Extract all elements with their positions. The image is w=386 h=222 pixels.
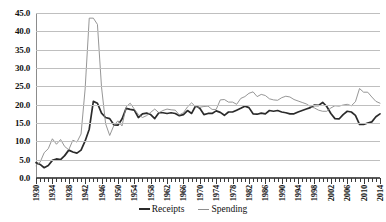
x-axis-tick-label: 1970 bbox=[195, 185, 205, 201]
x-axis-major-tick bbox=[118, 178, 119, 184]
x-axis-minor-tick bbox=[319, 178, 320, 182]
gridline bbox=[36, 31, 380, 32]
series-line-receipts bbox=[36, 101, 380, 167]
x-axis-major-tick bbox=[167, 178, 168, 184]
x-axis-tick-label: 2010 bbox=[359, 185, 369, 201]
y-axis-tick-label: 45.0 bbox=[15, 8, 30, 18]
x-axis-tick-label: 1954 bbox=[129, 185, 139, 201]
x-axis-tick-label: 1990 bbox=[277, 185, 287, 201]
legend-label-spending: Spending bbox=[211, 204, 247, 214]
x-axis-minor-tick bbox=[224, 178, 225, 182]
x-axis-minor-tick bbox=[40, 178, 41, 182]
x-axis-tick-label: 1978 bbox=[228, 185, 238, 201]
x-axis-minor-tick bbox=[372, 178, 373, 182]
x-axis-minor-tick bbox=[130, 178, 131, 182]
x-axis-tick-label: 1930 bbox=[31, 185, 41, 201]
x-axis-major-tick bbox=[380, 178, 381, 184]
x-axis-major-tick bbox=[134, 178, 135, 184]
x-axis-major-tick bbox=[85, 178, 86, 184]
plot-area bbox=[36, 13, 380, 178]
x-axis-major-tick bbox=[69, 178, 70, 184]
x-axis-minor-tick bbox=[208, 178, 209, 182]
x-axis-minor-tick bbox=[269, 178, 270, 182]
x-axis-minor-tick bbox=[93, 178, 94, 182]
x-axis-minor-tick bbox=[159, 178, 160, 182]
x-axis-tick-label: 1966 bbox=[178, 185, 188, 201]
x-axis-major-tick bbox=[249, 178, 250, 184]
chart-container: 0.05.010.015.020.025.030.035.040.045.0 1… bbox=[0, 0, 386, 222]
x-axis-minor-tick bbox=[376, 178, 377, 182]
x-axis-minor-tick bbox=[220, 178, 221, 182]
x-axis-major-tick bbox=[52, 178, 53, 184]
x-axis-minor-tick bbox=[179, 178, 180, 182]
y-axis-tick-label: 0.0 bbox=[19, 173, 30, 183]
x-axis-minor-tick bbox=[147, 178, 148, 182]
gridline bbox=[36, 141, 380, 142]
x-axis-minor-tick bbox=[294, 178, 295, 182]
x-axis-major-tick bbox=[216, 178, 217, 184]
x-axis-minor-tick bbox=[278, 178, 279, 182]
gridline bbox=[36, 86, 380, 87]
y-axis-tick-label: 5.0 bbox=[19, 155, 30, 165]
x-axis-major-tick bbox=[331, 178, 332, 184]
x-axis-tick-label: 1986 bbox=[260, 185, 270, 201]
x-axis-minor-tick bbox=[241, 178, 242, 182]
legend-item-spending: Spending bbox=[198, 204, 247, 214]
y-axis-tick-label: 25.0 bbox=[15, 81, 30, 91]
legend-item-receipts: Receipts bbox=[139, 204, 185, 214]
x-axis-minor-tick bbox=[327, 178, 328, 182]
gridline bbox=[36, 160, 380, 161]
x-axis-tick-label: 1994 bbox=[293, 185, 303, 201]
x-axis-tick-label: 1950 bbox=[113, 185, 123, 201]
y-axis-tick-label: 35.0 bbox=[15, 45, 30, 55]
x-axis-minor-tick bbox=[110, 178, 111, 182]
x-axis-tick-label: 1942 bbox=[80, 185, 90, 201]
x-axis-minor-tick bbox=[196, 178, 197, 182]
y-axis-labels: 0.05.010.015.020.025.030.035.040.045.0 bbox=[0, 0, 34, 191]
x-axis-minor-tick bbox=[261, 178, 262, 182]
x-axis-minor-tick bbox=[142, 178, 143, 182]
x-axis-minor-tick bbox=[290, 178, 291, 182]
x-axis-minor-tick bbox=[138, 178, 139, 182]
gridline bbox=[36, 123, 380, 124]
x-axis-tick-label: 2006 bbox=[342, 185, 352, 201]
x-axis-major-tick bbox=[151, 178, 152, 184]
series-layer bbox=[36, 13, 380, 178]
x-axis-minor-tick bbox=[44, 178, 45, 182]
x-axis-minor-tick bbox=[89, 178, 90, 182]
x-axis-major-tick bbox=[102, 178, 103, 184]
x-axis-minor-tick bbox=[56, 178, 57, 182]
x-axis-tick-label: 1958 bbox=[146, 185, 156, 201]
x-axis-minor-tick bbox=[155, 178, 156, 182]
legend-line-icon-spending bbox=[198, 209, 209, 210]
legend-label-receipts: Receipts bbox=[152, 204, 185, 214]
y-axis-tick-label: 15.0 bbox=[15, 118, 30, 128]
x-axis-minor-tick bbox=[114, 178, 115, 182]
x-axis-minor-tick bbox=[335, 178, 336, 182]
y-axis-tick-label: 30.0 bbox=[15, 63, 30, 73]
x-axis-minor-tick bbox=[323, 178, 324, 182]
y-axis-tick-label: 40.0 bbox=[15, 26, 30, 36]
x-axis-minor-tick bbox=[237, 178, 238, 182]
x-axis-tick-label: 1974 bbox=[211, 185, 221, 201]
x-axis-minor-tick bbox=[368, 178, 369, 182]
x-axis-minor-tick bbox=[355, 178, 356, 182]
x-axis-minor-tick bbox=[126, 178, 127, 182]
x-axis-tick-label: 1938 bbox=[64, 185, 74, 201]
x-axis-minor-tick bbox=[48, 178, 49, 182]
x-axis-tick-label: 1934 bbox=[47, 185, 57, 201]
x-axis-minor-tick bbox=[360, 178, 361, 182]
x-axis-minor-tick bbox=[351, 178, 352, 182]
x-axis-major-tick bbox=[265, 178, 266, 184]
x-axis-tick-label: 1982 bbox=[244, 185, 254, 201]
x-axis-minor-tick bbox=[106, 178, 107, 182]
x-axis-minor-tick bbox=[97, 178, 98, 182]
x-axis-major-tick bbox=[347, 178, 348, 184]
x-axis-minor-tick bbox=[257, 178, 258, 182]
gridline bbox=[36, 105, 380, 106]
x-axis-tick-label: 1946 bbox=[97, 185, 107, 201]
x-axis-minor-tick bbox=[274, 178, 275, 182]
x-axis-minor-tick bbox=[286, 178, 287, 182]
x-axis-minor-tick bbox=[306, 178, 307, 182]
x-axis-tick-label: 1962 bbox=[162, 185, 172, 201]
